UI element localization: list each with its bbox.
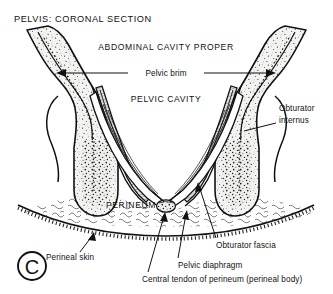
label-pelvic-brim: Pelvic brim [145, 69, 186, 78]
pelvis-coronal-section-figure: PELVIS: CORONAL SECTION ABDOMINAL CAVITY… [0, 0, 333, 294]
anatomical-illustration: PELVIS: CORONAL SECTION ABDOMINAL CAVITY… [0, 0, 333, 294]
region-label-abdominal-cavity: ABDOMINAL CAVITY PROPER [98, 42, 233, 52]
region-label-perineum: PERINEUM [106, 200, 156, 210]
label-central-tendon: Central tendon of perineum (perineal bod… [142, 275, 302, 284]
label-obturator-internus-line1: Obturator [279, 104, 315, 113]
label-pelvic-diaphragm: Pelvic diaphragm [178, 261, 242, 270]
label-obturator-internus-line2: internus [279, 116, 309, 125]
region-label-pelvic-cavity: PELVIC CAVITY [131, 94, 202, 104]
panel-letter: C [25, 256, 39, 278]
figure-title: PELVIS: CORONAL SECTION [14, 14, 152, 24]
label-perineal-skin: Perineal skin [46, 253, 95, 262]
central-tendon-perineal-body [157, 200, 176, 212]
label-obturator-fascia: Obturator fascia [216, 241, 276, 250]
